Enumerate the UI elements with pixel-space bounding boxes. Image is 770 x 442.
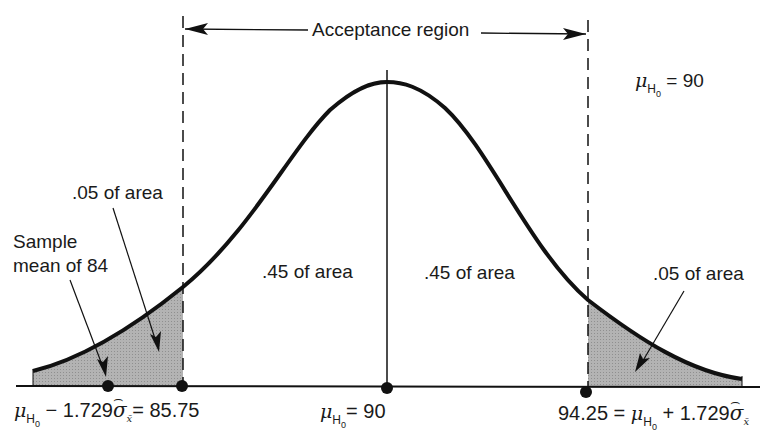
mu-subscript: H0 — [647, 82, 661, 96]
sigma-hat-symbol: ⌢σx̄ — [730, 403, 749, 423]
upper-limit-point — [580, 386, 592, 398]
acceptance-region-label: Acceptance region — [312, 20, 469, 39]
sigma-hat-symbol: ⌢σx̄ — [113, 400, 132, 420]
mean-point — [381, 382, 393, 394]
mu-symbol: μ — [635, 69, 647, 91]
right-tail-area-label: .05 of area — [653, 264, 744, 283]
lower-limit-point — [176, 380, 188, 392]
lower-limit-label: μH0 − 1.729⌢σx̄= 85.75 — [14, 400, 199, 420]
left-tail-area-label: .05 of area — [72, 183, 163, 202]
mean-annotation-value: = 90 — [666, 70, 704, 91]
left-center-area-label: .45 of area — [262, 262, 353, 281]
normal-distribution-diagram — [0, 0, 770, 442]
left-rejection-region — [33, 287, 183, 386]
mean-annotation: μH0 = 90 — [635, 71, 704, 90]
right-center-area-label: .45 of area — [424, 263, 515, 282]
mean-label: μH0= 90 — [320, 401, 386, 421]
sample-mean-label: Sample mean of 84 — [13, 230, 108, 278]
upper-limit-label: 94.25 = μH0 + 1.729⌢σx̄ — [558, 403, 749, 423]
